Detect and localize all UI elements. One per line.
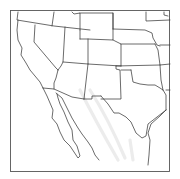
map-container	[0, 0, 180, 179]
outline-map	[0, 0, 180, 179]
